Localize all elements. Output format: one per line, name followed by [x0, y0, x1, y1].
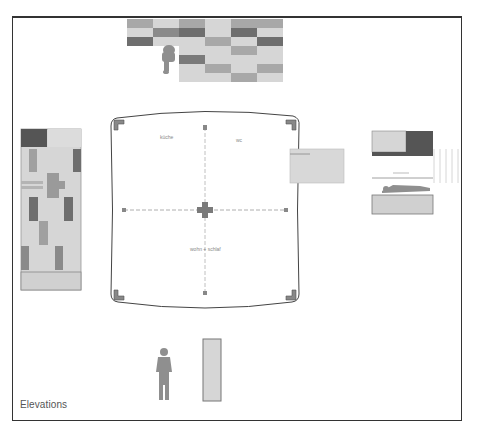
room-label-kitchen: küche — [160, 134, 173, 140]
drawing-caption: Elevations — [20, 399, 67, 410]
top-elevation — [127, 19, 283, 82]
center-cross-icon — [197, 202, 213, 218]
person-figure-icon — [162, 45, 175, 74]
bottom-elevation — [156, 339, 221, 401]
right-elevation — [372, 131, 458, 214]
elevation-drawing — [0, 0, 477, 438]
room-label-living: wohn + schlaf — [190, 246, 221, 252]
standing-figure-icon — [156, 348, 172, 400]
room-label-wc: wc — [236, 137, 242, 143]
left-elevation — [21, 129, 81, 290]
reclining-figure-icon — [382, 185, 430, 193]
floor-plan — [111, 111, 344, 308]
